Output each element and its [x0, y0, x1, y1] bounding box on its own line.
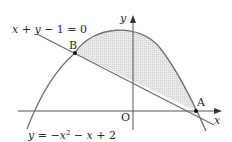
parabola-equation-label: y = −x2 − x + 2 — [27, 129, 116, 142]
line-equation-label: x + y − 1 = 0 — [12, 23, 87, 36]
x-axis-label: x — [214, 114, 221, 127]
math-diagram: x + y − 1 = 0 B A O x y y = −x2 − x + 2 — [0, 0, 232, 142]
y-axis-label: y — [119, 12, 127, 25]
origin-label: O — [121, 111, 130, 124]
point-a-label: A — [196, 96, 206, 109]
point-a-marker — [194, 109, 198, 113]
y-axis-arrow-icon — [130, 15, 136, 23]
shaded-region — [75, 30, 196, 111]
point-b-label: B — [69, 39, 77, 52]
